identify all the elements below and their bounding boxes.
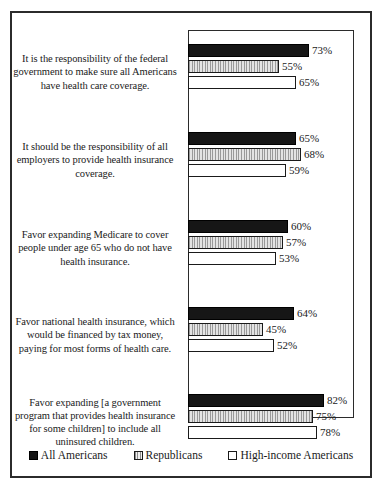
legend-item-high-income[interactable]: High-income Americans xyxy=(228,449,353,461)
legend-item-all-americans[interactable]: All Americans xyxy=(29,449,108,461)
bar-group-all-americans: 82% xyxy=(188,394,347,407)
chart-legend: All Americans Republicans High-income Am… xyxy=(12,444,370,466)
chart-category-row: Favor expanding Medicare to cover people… xyxy=(12,217,370,279)
bar-group-republicans: 55% xyxy=(188,60,302,73)
chart-figure-frame: It is the responsibility of the federal … xyxy=(10,11,372,478)
chart-category-row: It is the responsibility of the federal … xyxy=(12,41,370,103)
bar-group-all-americans: 64% xyxy=(188,307,317,320)
bar-republicans[interactable] xyxy=(188,323,263,336)
bar-all-americans[interactable] xyxy=(188,307,294,320)
legend-label: All Americans xyxy=(41,449,108,461)
category-label: It should be the responsibility of all e… xyxy=(12,140,186,180)
bar-high-income[interactable] xyxy=(188,426,317,439)
bar-group-all-americans: 73% xyxy=(188,44,332,57)
bar-group-high-income: 78% xyxy=(188,426,340,439)
category-bars: 65% 68% 59% xyxy=(186,129,370,191)
bar-high-income[interactable] xyxy=(188,76,296,89)
bar-group-all-americans: 65% xyxy=(188,132,319,145)
legend-swatch-icon xyxy=(29,451,38,460)
bar-republicans[interactable] xyxy=(188,410,313,423)
bar-value-all-americans: 60% xyxy=(291,221,311,232)
bar-value-all-americans: 65% xyxy=(299,133,319,144)
bar-high-income[interactable] xyxy=(188,164,286,177)
category-label: Favor expanding [a government program th… xyxy=(12,396,186,449)
bar-republicans[interactable] xyxy=(188,236,283,249)
category-bars: 64% 45% 52% xyxy=(186,304,370,366)
bar-high-income[interactable] xyxy=(188,339,274,352)
legend-label: High-income Americans xyxy=(240,449,353,461)
bar-group-high-income: 52% xyxy=(188,339,297,352)
bar-all-americans[interactable] xyxy=(188,220,288,233)
bar-value-high-income: 59% xyxy=(289,165,309,176)
bar-value-republicans: 75% xyxy=(316,411,336,422)
category-label: Favor expanding Medicare to cover people… xyxy=(12,228,186,268)
bar-value-high-income: 65% xyxy=(299,77,319,88)
bar-group-republicans: 68% xyxy=(188,148,324,161)
bar-value-republicans: 57% xyxy=(286,237,306,248)
bar-group-high-income: 53% xyxy=(188,252,299,265)
legend-swatch-icon xyxy=(134,451,143,460)
bar-group-republicans: 57% xyxy=(188,236,306,249)
bar-group-high-income: 59% xyxy=(188,164,309,177)
bar-group-republicans: 45% xyxy=(188,323,286,336)
bar-all-americans[interactable] xyxy=(188,132,296,145)
bar-value-high-income: 78% xyxy=(320,427,340,438)
bar-group-all-americans: 60% xyxy=(188,220,311,233)
bar-value-all-americans: 64% xyxy=(297,308,317,319)
bar-all-americans[interactable] xyxy=(188,394,324,407)
chart-category-row: Favor national health insurance, which w… xyxy=(12,304,370,366)
category-bars: 60% 57% 53% xyxy=(186,217,370,279)
legend-item-republicans[interactable]: Republicans xyxy=(134,449,203,461)
legend-label: Republicans xyxy=(146,449,203,461)
bar-value-republicans: 45% xyxy=(266,324,286,335)
bar-all-americans[interactable] xyxy=(188,44,309,57)
bar-republicans[interactable] xyxy=(188,60,279,73)
bar-value-republicans: 55% xyxy=(282,61,302,72)
bar-republicans[interactable] xyxy=(188,148,301,161)
chart-body: It is the responsibility of the federal … xyxy=(12,13,370,433)
category-label: It is the responsibility of the federal … xyxy=(12,52,186,92)
bar-group-republicans: 75% xyxy=(188,410,336,423)
bar-value-high-income: 52% xyxy=(277,340,297,351)
chart-category-row: It should be the responsibility of all e… xyxy=(12,129,370,191)
category-label: Favor national health insurance, which w… xyxy=(12,315,186,355)
bar-group-high-income: 65% xyxy=(188,76,319,89)
bar-value-high-income: 53% xyxy=(279,253,299,264)
bar-high-income[interactable] xyxy=(188,252,276,265)
bar-value-all-americans: 82% xyxy=(327,395,347,406)
bar-value-all-americans: 73% xyxy=(312,45,332,56)
category-bars: 73% 55% 65% xyxy=(186,41,370,103)
bar-value-republicans: 68% xyxy=(304,149,324,160)
legend-swatch-icon xyxy=(228,451,237,460)
